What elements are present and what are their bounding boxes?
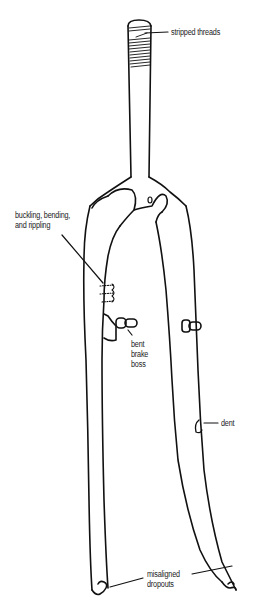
leader-line-threads: [145, 32, 168, 33]
label-dent: dent: [221, 418, 234, 428]
bent-brake-boss-icon: [104, 314, 137, 341]
label-line: and rippling: [15, 220, 70, 230]
threads-icon: [129, 26, 150, 67]
leader-line-brake-boss: [128, 330, 132, 335]
label-line: misaligned: [147, 569, 180, 579]
label-bent-brake-boss: bent brake boss: [131, 339, 148, 369]
left-blade: [84, 206, 120, 595]
buckling-marks-icon: [100, 285, 114, 302]
label-line: brake: [131, 349, 148, 359]
fork-crown: [90, 177, 186, 226]
right-blade: [156, 206, 236, 590]
label-misaligned-dropouts: misaligned dropouts: [147, 569, 180, 589]
label-stripped-threads: stripped threads: [171, 27, 220, 37]
crown-hole-icon: [148, 197, 152, 203]
brake-boss-icon: [182, 320, 201, 332]
label-line: bent: [131, 339, 148, 349]
steerer-tube: [128, 20, 151, 177]
label-line: buckling, bending,: [15, 210, 70, 220]
label-buckling: buckling, bending, and rippling: [15, 210, 70, 230]
leader-line-buckling: [62, 235, 103, 283]
leader-line-dropout-left: [110, 578, 143, 587]
label-line: stripped threads: [171, 27, 220, 37]
fork-diagram: [0, 0, 254, 607]
label-line: dent: [221, 418, 234, 428]
label-line: dropouts: [147, 579, 180, 589]
label-line: boss: [131, 359, 148, 369]
